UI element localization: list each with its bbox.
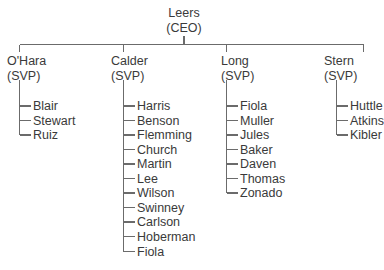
leaf-stern-0[interactable]: Huttle (350, 99, 383, 114)
leaf-long-3[interactable]: Baker (240, 143, 273, 158)
node-svp-stern-title: (SVP) (324, 69, 357, 84)
leaf-calder-9[interactable]: Hoberman (137, 230, 195, 245)
leaf-calder-6[interactable]: Wilson (137, 186, 175, 201)
node-svp-calder-name: Calder (111, 54, 148, 69)
node-ceo[interactable]: Leers (CEO) (152, 6, 216, 36)
node-svp-ohara-title: (SVP) (7, 69, 46, 84)
leaf-calder-10[interactable]: Fiola (137, 245, 164, 260)
node-svp-ohara[interactable]: O'Hara (SVP) (7, 54, 46, 84)
leaf-calder-5[interactable]: Lee (137, 172, 158, 187)
node-ceo-name: Leers (152, 6, 216, 21)
leaf-ohara-0[interactable]: Blair (33, 99, 58, 114)
leaf-calder-0[interactable]: Harris (137, 99, 170, 114)
leaf-calder-7[interactable]: Swinney (137, 201, 184, 216)
node-svp-stern[interactable]: Stern (SVP) (324, 54, 357, 84)
node-svp-long-title: (SVP) (221, 69, 254, 84)
leaf-calder-3[interactable]: Church (137, 143, 177, 158)
node-svp-long[interactable]: Long (SVP) (221, 54, 254, 84)
leaf-stern-1[interactable]: Atkins (350, 114, 384, 129)
node-svp-calder[interactable]: Calder (SVP) (111, 54, 148, 84)
leaf-calder-1[interactable]: Benson (137, 114, 179, 129)
leaf-long-1[interactable]: Muller (240, 114, 274, 129)
leaf-calder-8[interactable]: Carlson (137, 215, 180, 230)
node-svp-long-name: Long (221, 54, 254, 69)
leaf-long-2[interactable]: Jules (240, 128, 269, 143)
leaf-long-6[interactable]: Zonado (240, 186, 282, 201)
leaf-calder-2[interactable]: Flemming (137, 128, 192, 143)
node-svp-calder-title: (SVP) (111, 69, 148, 84)
leaf-long-0[interactable]: Fiola (240, 99, 267, 114)
leaf-ohara-1[interactable]: Stewart (33, 114, 75, 129)
leaf-calder-4[interactable]: Martin (137, 157, 172, 172)
node-ceo-title: (CEO) (152, 21, 216, 36)
node-svp-ohara-name: O'Hara (7, 54, 46, 69)
leaf-long-5[interactable]: Thomas (240, 172, 285, 187)
leaf-stern-2[interactable]: Kibler (350, 128, 382, 143)
leaf-long-4[interactable]: Daven (240, 157, 276, 172)
node-svp-stern-name: Stern (324, 54, 357, 69)
leaf-ohara-2[interactable]: Ruiz (33, 128, 58, 143)
